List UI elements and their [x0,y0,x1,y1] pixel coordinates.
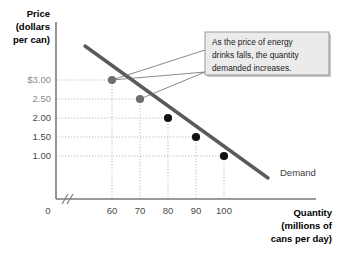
x-tick-label-100: 100 [216,205,232,216]
x-tick-labels: 60 70 80 90 100 0 [45,205,232,216]
leader-line-to-60 [112,50,205,80]
y-axis-title-line-3: per can) [13,34,50,45]
y-tick-label-2.50: 2.50 [33,93,52,104]
y-axis-title-line-1: Price [27,8,50,19]
x-axis-title-line-2: (millions of [281,220,333,231]
x-tick-label-90: 90 [191,205,202,216]
x-axis-title-line-1: Quantity [293,207,332,218]
data-point-90 [192,133,200,141]
x-axis-title-line-3: cans per day) [271,233,332,244]
data-point-80 [164,114,172,122]
data-point-70 [136,95,144,103]
y-axis-title: Price (dollars per can) [13,8,50,45]
y-tick-label-1.50: 1.50 [33,131,52,142]
x-tick-label-70: 70 [135,205,146,216]
y-tick-labels: $3.00 2.50 2.00 1.50 1.00 [27,74,51,161]
data-point-100 [220,152,228,160]
chart-canvas: $3.00 2.50 2.00 1.50 1.00 60 70 80 90 10… [0,0,338,259]
gridlines-vertical [112,80,224,199]
y-tick-label-2.00: 2.00 [33,112,52,123]
y-tick-label-1.00: 1.00 [33,150,52,161]
demand-curve-chart: $3.00 2.50 2.00 1.50 1.00 60 70 80 90 10… [0,0,338,259]
origin-label: 0 [45,205,50,216]
y-tick-label-3.00: $3.00 [27,74,51,85]
x-tick-label-60: 60 [107,205,118,216]
leader-line-to-70 [140,72,205,99]
demand-series-label: Demand [280,167,316,178]
x-axis-title: Quantity (millions of cans per day) [271,207,333,244]
data-point-60 [108,76,116,84]
x-tick-label-80: 80 [163,205,174,216]
callout-text-line-3: demanded increases. [212,63,291,73]
annotation-callout: As the price of energy drinks falls, the… [205,32,331,77]
callout-text-line-1: As the price of energy [212,37,294,47]
y-axis-title-line-2: (dollars [16,21,50,32]
callout-text-line-2: drinks falls, the quantity [212,50,300,60]
